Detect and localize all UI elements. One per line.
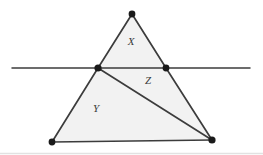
vertex-dot-right-intersection (163, 65, 170, 72)
region-label-z: Z (145, 74, 152, 86)
vertex-dot-bottom-right (208, 136, 215, 143)
vertex-dot-apex (129, 11, 136, 18)
vertex-dot-bottom-left (49, 139, 56, 146)
vertex-dot-left-intersection (94, 64, 101, 71)
region-label-x: X (127, 35, 136, 47)
geometry-figure: X Z Y (0, 0, 263, 155)
region-fills (52, 14, 212, 142)
figure-canvas: X Z Y (0, 0, 263, 155)
